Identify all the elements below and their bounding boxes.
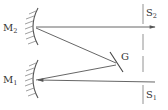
mirror-m1-surface	[33, 60, 38, 98]
ray-g-to-m2	[36, 28, 116, 63]
mirror-m2	[25, 8, 38, 45]
label-s1: S1	[146, 89, 157, 102]
mirror-m2-surface	[33, 8, 38, 45]
mirror-m1	[25, 60, 38, 98]
label-m1: M1	[3, 74, 17, 87]
label-g: G	[121, 51, 129, 62]
label-m2: M2	[3, 22, 17, 35]
optical-diagram: M2 M1 G S2 S1	[0, 0, 168, 110]
ray-m1-to-g	[36, 65, 116, 80]
ray-s1-to-m1	[38, 80, 155, 82]
label-s2: S2	[146, 7, 157, 20]
